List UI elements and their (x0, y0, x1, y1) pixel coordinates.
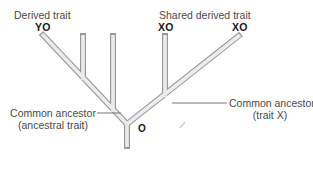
root-node-label: O (138, 123, 146, 135)
tip-label-xo-left: XO (158, 21, 174, 33)
derived-trait-label: Derived trait (14, 9, 71, 21)
tip-label-xo-right: XO (232, 21, 248, 33)
common-ancestor-ancestral-line2: (ancestral trait) (10, 119, 96, 131)
common-ancestor-trait-x-line1: Common ancestor (229, 97, 311, 109)
tip-label-yo: YO (35, 21, 51, 33)
common-ancestor-trait-x-line2: (trait X) (229, 109, 311, 121)
faint-mark (180, 122, 185, 128)
common-ancestor-trait-x-label: Common ancestor (trait X) (229, 97, 311, 121)
common-ancestor-ancestral-label: Common ancestor (ancestral trait) (10, 107, 96, 131)
shared-derived-trait-label: Shared derived trait (159, 9, 251, 21)
common-ancestor-ancestral-line1: Common ancestor (10, 107, 96, 119)
